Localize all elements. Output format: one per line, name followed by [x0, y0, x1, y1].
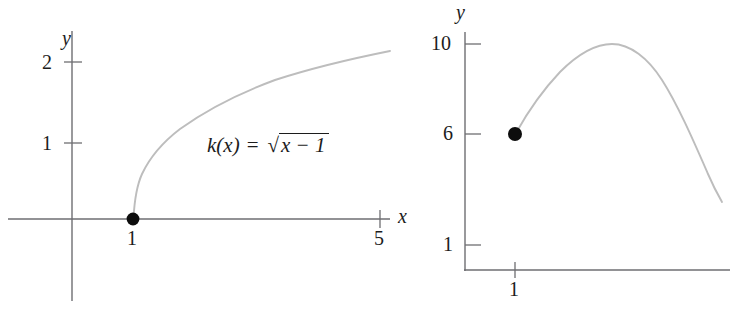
- right-y-tick-label-1: 1: [443, 234, 453, 254]
- right-curve-parabola: [516, 44, 722, 202]
- right-plot-canvas: [0, 0, 730, 310]
- right-y-axis-label: y: [456, 2, 465, 22]
- right-point-1-6: [508, 127, 522, 141]
- right-y-tick-label-10: 10: [431, 33, 451, 53]
- two-plot-figure: y x 2 1 1 5 k(x)=√x − 1 y 10 6 1 1: [0, 0, 730, 310]
- right-x-tick-label-1: 1: [509, 279, 519, 299]
- right-y-tick-label-6: 6: [443, 123, 453, 143]
